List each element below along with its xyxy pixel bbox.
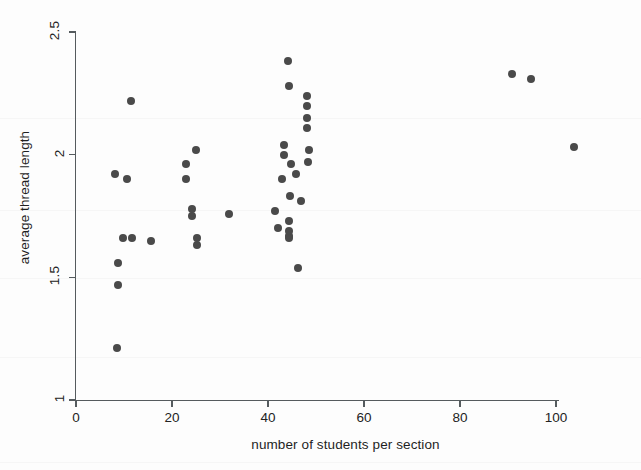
data-point xyxy=(182,160,190,168)
data-point xyxy=(114,281,122,289)
data-point xyxy=(119,234,127,242)
data-point xyxy=(127,97,135,105)
data-point xyxy=(188,212,196,220)
x-tick-label: 60 xyxy=(344,410,384,425)
data-point xyxy=(294,264,302,272)
x-tick-mark xyxy=(267,401,268,407)
data-point xyxy=(285,82,293,90)
data-point xyxy=(292,170,300,178)
data-point xyxy=(303,114,311,122)
data-point xyxy=(182,175,190,183)
data-point xyxy=(278,175,286,183)
scan-artifact xyxy=(0,462,641,463)
y-tick-label-text: 2 xyxy=(53,149,68,157)
x-tick-label: 40 xyxy=(248,410,288,425)
data-point xyxy=(303,92,311,100)
y-tick-label: 2 xyxy=(0,146,64,161)
data-point xyxy=(284,57,292,65)
y-axis-title: average thread length xyxy=(17,88,32,308)
data-point xyxy=(303,102,311,110)
x-tick-label: 0 xyxy=(56,410,96,425)
y-tick-label-text: 1.5 xyxy=(47,266,62,285)
y-tick-label: 1 xyxy=(0,391,64,406)
data-point xyxy=(570,143,578,151)
x-axis-title: number of students per section xyxy=(251,437,439,452)
data-point xyxy=(193,241,201,249)
data-point xyxy=(114,259,122,267)
y-tick-label-text: 1 xyxy=(53,395,68,403)
data-point xyxy=(128,234,136,242)
data-point xyxy=(303,124,311,132)
data-point xyxy=(285,234,293,242)
data-point xyxy=(274,224,282,232)
x-axis-title-wrap: number of students per section xyxy=(0,437,641,452)
scatter-plot-figure: 11.522.5 020406080100 average thread len… xyxy=(0,0,641,470)
data-point xyxy=(305,146,313,154)
x-tick-label: 80 xyxy=(440,410,480,425)
y-tick-label: 2.5 xyxy=(0,23,64,38)
y-tick-label: 1.5 xyxy=(0,268,64,283)
data-point xyxy=(508,70,516,78)
data-point xyxy=(147,237,155,245)
data-point xyxy=(280,141,288,149)
data-point xyxy=(297,197,305,205)
x-tick-label: 20 xyxy=(152,410,192,425)
data-point xyxy=(286,192,294,200)
x-tick-mark xyxy=(75,401,76,407)
data-point xyxy=(280,151,288,159)
data-point xyxy=(285,227,293,235)
x-tick-mark xyxy=(555,401,556,407)
data-point xyxy=(123,175,131,183)
x-tick-mark xyxy=(459,401,460,407)
data-point xyxy=(271,207,279,215)
data-point xyxy=(192,146,200,154)
data-point xyxy=(304,158,312,166)
y-tick-label-text: 2.5 xyxy=(47,21,62,40)
data-point xyxy=(527,75,535,83)
y-tick-mark xyxy=(69,154,76,155)
data-point xyxy=(287,160,295,168)
y-tick-mark xyxy=(69,31,76,32)
y-tick-mark xyxy=(69,277,76,278)
x-tick-mark xyxy=(171,401,172,407)
x-axis-line xyxy=(75,400,559,401)
data-point xyxy=(111,170,119,178)
x-tick-mark xyxy=(363,401,364,407)
data-point xyxy=(225,210,233,218)
x-tick-label: 100 xyxy=(536,410,576,425)
plot-data-area xyxy=(76,32,556,400)
data-point xyxy=(113,344,121,352)
data-point xyxy=(285,217,293,225)
